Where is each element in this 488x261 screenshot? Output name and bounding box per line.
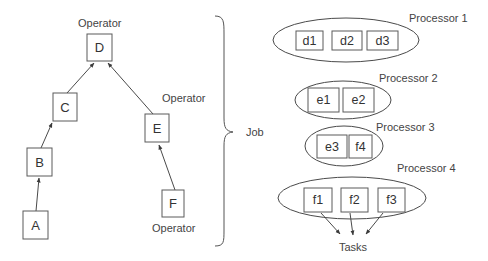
task-label-d2: d2 [340, 34, 354, 48]
edge-c-to-d [67, 63, 94, 93]
tasks-label: Tasks [339, 241, 368, 253]
task-e3: e3 [317, 135, 347, 158]
task-label-d1: d1 [303, 34, 317, 48]
task-f4: f4 [349, 135, 372, 158]
task-label-f3: f3 [386, 193, 396, 207]
job-brace: Job [215, 16, 264, 246]
processor-2-label: Processor 2 [379, 72, 438, 84]
task-f1: f1 [304, 188, 332, 212]
edge-b-to-c [41, 123, 52, 148]
task-e2: e2 [343, 88, 374, 112]
edge-a-to-b [36, 178, 39, 211]
task-label-f2: f2 [349, 193, 359, 207]
node-label-e: E [153, 121, 162, 136]
processors: Processor 1 d1 d2 d3 Processor 2 e1 [273, 12, 468, 253]
job-processor-diagram: D C B A E F Operator Operator Operato [0, 0, 488, 261]
processor-1-label: Processor 1 [409, 12, 468, 24]
operator-caption-middle: Operator [162, 92, 206, 104]
operator-node-b: B [27, 148, 52, 176]
operator-node-a: A [23, 211, 48, 239]
task-d3: d3 [367, 31, 398, 50]
task-f2: f2 [341, 188, 368, 212]
job-label: Job [246, 126, 264, 138]
task-label-e2: e2 [352, 93, 366, 107]
task-d1: d1 [296, 31, 323, 50]
processor-4: Processor 4 f1 f2 f3 Tasks [278, 162, 456, 253]
task-label-e3: e3 [325, 140, 339, 154]
node-label-b: B [35, 155, 44, 170]
operator-node-c: C [53, 93, 77, 121]
node-label-d: D [95, 40, 104, 55]
curly-brace-icon [215, 16, 233, 246]
operator-caption-bottom: Operator [152, 222, 196, 234]
operator-caption-top: Operator [78, 17, 122, 29]
operator-graph: D C B A E F Operator Operator Operato [23, 17, 206, 239]
operator-node-e: E [145, 114, 169, 142]
node-label-a: A [31, 218, 40, 233]
operator-node-f: F [162, 190, 184, 217]
node-label-f: F [169, 196, 177, 211]
processor-4-label: Processor 4 [397, 162, 456, 174]
task-f3: f3 [378, 188, 405, 212]
arrow-f1-to-tasks [321, 213, 340, 234]
arrow-f2-to-tasks [350, 213, 353, 235]
edge-f-to-e [159, 145, 175, 190]
task-label-f1: f1 [313, 193, 323, 207]
arrow-f3-to-tasks [366, 213, 383, 234]
processor-3-label: Processor 3 [376, 121, 435, 133]
task-label-d3: d3 [376, 34, 390, 48]
task-e1: e1 [308, 88, 339, 112]
operator-node-d: D [87, 34, 112, 61]
edge-e-to-d [108, 63, 153, 114]
processor-2: Processor 2 e1 e2 [295, 72, 438, 119]
node-label-c: C [60, 100, 69, 115]
processor-1: Processor 1 d1 d2 d3 [273, 12, 468, 62]
task-label-f4: f4 [355, 140, 365, 154]
task-label-e1: e1 [317, 93, 331, 107]
processor-3: Processor 3 e3 f4 [305, 121, 435, 166]
task-d2: d2 [332, 31, 362, 50]
